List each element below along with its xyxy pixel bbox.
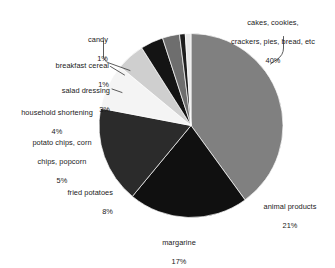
slice-label-cakes-percent: 40% (214, 56, 332, 66)
slice-label-salad-dressing-line1: salad dressing (14, 86, 110, 96)
slice-label-cakes-line1: cakes, cookies, (214, 18, 332, 28)
slice-label-potato-chips-line1: potato chips, corn (14, 138, 110, 148)
slice-label-animal-products-percent: 21% (246, 221, 334, 231)
slice-label-animal-products: animal products 21% (246, 192, 334, 240)
slice-label-household-shortening-line1: household shortening (4, 108, 110, 118)
slice-label-cakes-line2: crackers, pies, bread, etc (214, 37, 332, 47)
slice-label-fried-potatoes-line1: fried potatoes (28, 188, 113, 198)
slice-label-fried-potatoes-percent: 8% (28, 207, 113, 217)
slice-label-potato-chips-line2: chips, popcorn (14, 157, 110, 167)
slice-label-margarine-line1: margarine (138, 238, 220, 248)
slice-label-fried-potatoes: fried potatoes 8% (28, 178, 113, 226)
slice-label-breakfast-cereal-line1: breakfast cereal (10, 61, 109, 71)
slice-label-margarine: margarine 17% (138, 228, 220, 268)
slice-label-animal-products-line1: animal products (246, 202, 334, 212)
slice-label-candy-line1: candy (38, 35, 108, 45)
slice-label-margarine-percent: 17% (138, 257, 220, 267)
slice-label-cakes: cakes, cookies, crackers, pies, bread, e… (214, 8, 332, 75)
